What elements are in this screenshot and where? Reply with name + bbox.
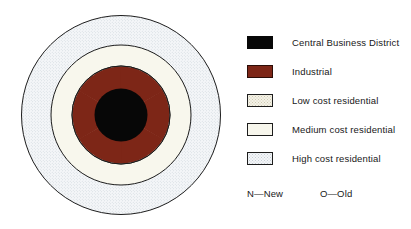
legend-label-high-cost-residential: High cost residential xyxy=(292,153,381,164)
legend-swatch-medium-cost-residential xyxy=(247,123,273,136)
zone-central-business-district xyxy=(95,89,148,142)
note-old: O—Old xyxy=(320,188,352,199)
legend-item-cbd: Central Business District xyxy=(247,28,407,57)
legend-swatch-cbd xyxy=(247,36,273,49)
legend-swatch-industrial xyxy=(247,65,273,78)
legend-item-industrial: Industrial xyxy=(247,57,407,86)
legend-item-low-cost-residential: Low cost residential xyxy=(247,86,407,115)
urban-land-use-figure: Central Business District Industrial Low… xyxy=(0,0,411,229)
legend: Central Business District Industrial Low… xyxy=(247,28,407,173)
legend-item-medium-cost-residential: Medium cost residential xyxy=(247,115,407,144)
abbreviation-note: N—New O—Old xyxy=(247,188,352,199)
diagram-svg xyxy=(14,8,228,222)
legend-label-low-cost-residential: Low cost residential xyxy=(292,95,378,106)
legend-label-medium-cost-residential: Medium cost residential xyxy=(292,124,395,135)
legend-label-cbd: Central Business District xyxy=(292,37,399,48)
concentric-zone-diagram xyxy=(14,8,228,222)
note-new: N—New xyxy=(247,188,283,199)
legend-swatch-low-cost-residential xyxy=(247,94,273,107)
legend-item-high-cost-residential: High cost residential xyxy=(247,144,407,173)
legend-swatch-high-cost-residential xyxy=(247,152,273,165)
legend-label-industrial: Industrial xyxy=(292,66,332,77)
